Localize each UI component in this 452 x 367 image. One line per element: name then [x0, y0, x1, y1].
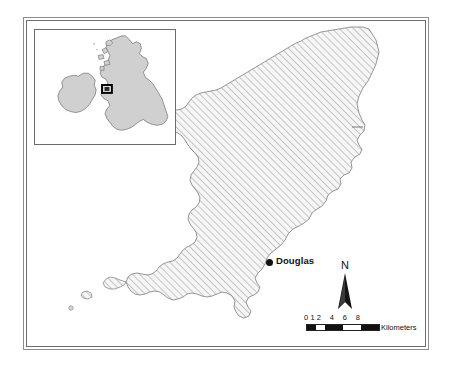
scale-seg-0-1 — [307, 325, 316, 330]
scale-bar-units-label: Kilometers — [381, 323, 416, 332]
great-britain-landmass — [100, 36, 168, 130]
scale-bar: 0 1 2 4 6 8 Kilometers — [306, 313, 418, 335]
city-marker-douglas — [266, 259, 273, 266]
city-label-douglas: Douglas — [276, 255, 314, 266]
north-arrow: N — [330, 259, 360, 311]
isle-of-man-highlight-box — [102, 85, 112, 93]
scale-bar-ticks: 0 1 2 4 6 8 — [306, 313, 378, 323]
scale-seg-1-2 — [316, 325, 325, 330]
scale-tick-8: 8 — [356, 313, 360, 322]
scale-seg-2-4 — [325, 325, 343, 330]
scale-seg-6-8 — [361, 325, 379, 330]
scale-tick-4: 4 — [330, 313, 334, 322]
ireland-landmass — [58, 73, 96, 112]
locator-inset-map — [34, 29, 176, 145]
scale-tick-6: 6 — [343, 313, 347, 322]
scale-tick-1: 1 — [310, 313, 314, 322]
scale-seg-4-6 — [343, 325, 361, 330]
scale-tick-2: 2 — [317, 313, 321, 322]
scale-bar-graphic — [306, 324, 380, 331]
map-figure: Douglas N 0 1 2 4 6 8 Kilometers — [0, 0, 452, 367]
scale-tick-0: 0 — [304, 313, 308, 322]
north-arrow-letter: N — [330, 259, 360, 271]
north-arrow-glyph — [330, 272, 360, 311]
